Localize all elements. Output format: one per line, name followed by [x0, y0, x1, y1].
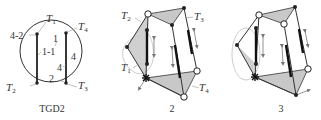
figure-canvas: T1 T4 4-2 1 1-1 4 4 2 T2 T3 TGD2	[0, 0, 321, 120]
caption-tgd2: TGD2	[39, 103, 65, 114]
shaded-triangle-bottom	[255, 69, 308, 95]
label-t4: T4	[78, 20, 88, 34]
vertex-bottom	[294, 93, 298, 97]
vertex-left	[235, 43, 239, 47]
label-edge-4-inner: 4	[57, 62, 62, 73]
vertex-bar-bottom	[254, 62, 258, 66]
panel-2: T2 T3 T1 T4 2	[121, 6, 209, 114]
label-t3: T3	[194, 10, 204, 24]
label-t3: T3	[78, 79, 88, 93]
vertex-open-top-left	[145, 11, 151, 17]
label-edge-4-right: 4	[71, 51, 76, 62]
label-edge-1: 1	[53, 33, 58, 44]
panel-tgd2: T1 T4 4-2 1 1-1 4 4 2 T2 T3 TGD2	[6, 12, 88, 114]
vertex-top-right	[293, 5, 297, 9]
vertex-top-mid	[170, 23, 174, 27]
vertex-left	[125, 45, 129, 49]
label-t2: T2	[121, 9, 131, 23]
caption-panel-2: 2	[170, 103, 175, 114]
thick-bar-middle	[175, 45, 180, 78]
vertex-open-top-left	[256, 12, 262, 18]
label-edge-4-2: 4-2	[10, 30, 23, 41]
caption-panel-3: 3	[279, 103, 284, 114]
vertex-bar-top	[145, 28, 149, 32]
vertex-bar-top	[254, 26, 258, 30]
vertex-open-top-mid	[281, 21, 287, 27]
label-t1: T1	[46, 12, 56, 26]
shaded-triangle-top	[148, 8, 184, 25]
shaded-triangle-bottom	[146, 71, 197, 97]
vertex-open-right	[305, 66, 311, 72]
vertex-bar-bottom	[145, 62, 149, 66]
label-t1: T1	[121, 61, 131, 75]
label-edge-1-1: 1-1	[42, 46, 55, 57]
panel-3: 3	[232, 5, 311, 114]
label-t2: T2	[6, 81, 16, 95]
vertex-star	[142, 74, 150, 82]
label-edge-2: 2	[49, 73, 54, 84]
vertex-open-bottom	[181, 94, 187, 100]
shaded-triangle-top	[259, 7, 295, 24]
vertex-open-right	[194, 68, 200, 74]
label-t4: T4	[199, 81, 209, 95]
vertex-top-right	[182, 6, 186, 10]
vertex-star	[251, 73, 259, 81]
